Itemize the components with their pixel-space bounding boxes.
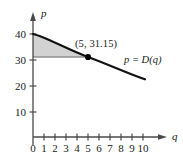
x-axis-label: q xyxy=(172,131,178,142)
chart-canvas xyxy=(0,0,183,165)
curve-equation-label: p = D(q) xyxy=(124,55,161,66)
y-tick-label-20: 20 xyxy=(6,81,26,92)
y-axis-label: p xyxy=(41,8,47,19)
y-tick-label-40: 40 xyxy=(6,29,26,40)
x-tick-label-10: 10 xyxy=(136,143,150,154)
y-axis-arrowhead xyxy=(30,12,36,21)
demand-curve-figure: p q 40 30 20 10 0 1 2 3 4 5 6 7 8 9 10 (… xyxy=(0,0,183,165)
y-tick-label-30: 30 xyxy=(6,55,26,66)
y-tick-label-10: 10 xyxy=(6,107,26,118)
x-axis-arrowhead xyxy=(158,134,167,140)
point-coordinate-label: (5, 31.15) xyxy=(75,39,117,50)
equilibrium-point-marker xyxy=(85,54,91,60)
